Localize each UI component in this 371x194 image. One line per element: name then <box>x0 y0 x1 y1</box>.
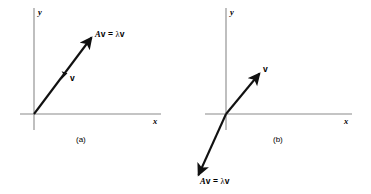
panel-b-vector-v-label: v <box>263 65 268 74</box>
panel-b-image-vector-label: Av = λv <box>200 177 230 186</box>
panel-a-x-axis-label: x <box>153 117 157 126</box>
panel-a-equals: = <box>106 29 116 39</box>
panel-b-equals: = <box>211 176 221 186</box>
panel-b-x-axis-label: x <box>344 117 348 126</box>
panel-b-vec-v-2: v <box>225 176 230 186</box>
panel-a-graph <box>20 8 161 130</box>
panel-a-image-vector-label: Av = λv <box>95 30 125 39</box>
panel-a-caption: (a) <box>76 136 86 144</box>
panel-a-vec-v-2: v <box>120 29 125 39</box>
panel-a-y-axis-label: y <box>38 8 42 17</box>
panel-a-vector-v-label: v <box>70 74 75 83</box>
panel-b-graph <box>199 8 353 175</box>
panel-b-y-axis-label: y <box>230 8 234 17</box>
panel-b-vector-v <box>226 74 260 115</box>
panel-b-caption: (b) <box>273 136 283 144</box>
panel-b-image-vector-Av <box>199 114 227 175</box>
figure-canvas <box>0 0 371 194</box>
eigenvector-figure: y x v Av = λv (a) y x v Av = λv (b) <box>0 0 371 194</box>
